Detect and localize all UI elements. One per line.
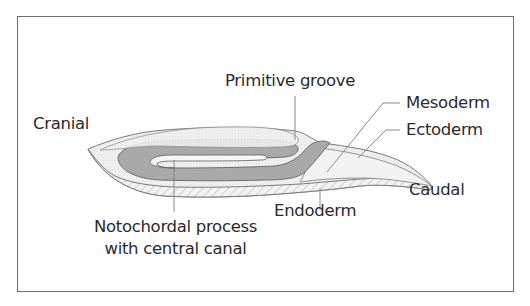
label-mesoderm: Mesoderm bbox=[406, 95, 490, 112]
embryo-diagram bbox=[0, 0, 530, 306]
label-cranial: Cranial bbox=[33, 116, 89, 133]
label-notochordal-process: Notochordal process with central canal bbox=[78, 219, 273, 257]
label-caudal: Caudal bbox=[409, 182, 464, 199]
label-primitive-groove: Primitive groove bbox=[225, 73, 355, 90]
label-notochordal-line2: with central canal bbox=[78, 241, 273, 258]
label-ectoderm: Ectoderm bbox=[406, 122, 483, 139]
label-notochordal-line1: Notochordal process bbox=[78, 219, 273, 236]
label-endoderm: Endoderm bbox=[274, 203, 356, 220]
